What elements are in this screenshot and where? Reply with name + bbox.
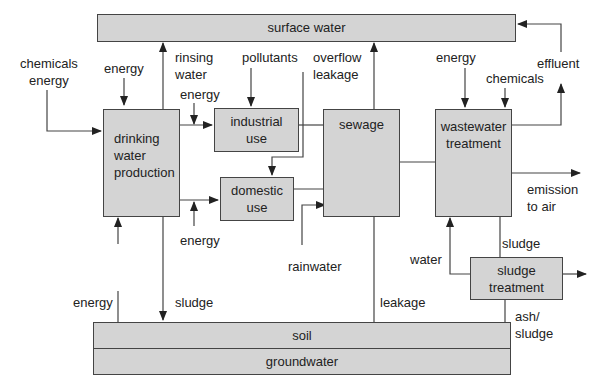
label-to-air: to air xyxy=(527,198,578,215)
dwp-line-1: drinking xyxy=(114,130,179,147)
label-sludge-dwp: sludge xyxy=(175,294,213,311)
dwp-line-2: water xyxy=(114,147,179,164)
label-chemicals: chemicals xyxy=(20,55,78,72)
label-ash: ash/ xyxy=(515,308,553,325)
label-energy-bottom: energy xyxy=(73,294,113,311)
wastewater-treatment-box: wastewater treatment xyxy=(435,109,512,217)
soil-label: soil xyxy=(292,328,312,343)
label-rinsing: rinsing xyxy=(175,49,213,66)
label-sludge-ash: sludge xyxy=(515,325,553,342)
dwp-line-3: production xyxy=(114,164,179,181)
domestic-line-2: use xyxy=(221,199,293,216)
label-energy-wwt: energy xyxy=(436,49,476,66)
label-rainwater: rainwater xyxy=(288,258,341,275)
wwt-line-2: treatment xyxy=(436,135,511,152)
label-energy-industrial: energy xyxy=(180,86,220,103)
label-water: water xyxy=(410,251,442,268)
groundwater-label: groundwater xyxy=(266,354,338,369)
label-overflow-leakage: overflow leakage xyxy=(313,49,361,83)
label-ash-sludge: ash/ sludge xyxy=(515,308,553,342)
label-effluent: effluent xyxy=(537,55,579,72)
industrial-use-box: industrial use xyxy=(214,108,299,152)
industrial-line-1: industrial xyxy=(215,113,298,130)
label-energy-domestic: energy xyxy=(180,232,220,249)
wwt-line-1: wastewater xyxy=(436,118,511,135)
label-leakage: leakage xyxy=(380,294,426,311)
groundwater-box: groundwater xyxy=(93,348,511,375)
sludge-treatment-box: sludge treatment xyxy=(470,257,563,300)
st-line-1: sludge xyxy=(471,262,562,279)
industrial-line-2: use xyxy=(215,130,298,147)
label-pollutants: pollutants xyxy=(242,49,298,66)
label-emission-to-air: emission to air xyxy=(527,181,578,215)
sewage-label: sewage xyxy=(324,116,399,133)
sewage-box: sewage xyxy=(323,109,400,217)
label-overflow: overflow xyxy=(313,49,361,66)
domestic-line-1: domestic xyxy=(221,182,293,199)
soil-box: soil xyxy=(93,322,511,349)
label-chemicals-energy: chemicals energy xyxy=(20,55,78,89)
drinking-water-production-box: drinking water production xyxy=(103,109,180,217)
label-sludge-wwt: sludge xyxy=(502,235,540,252)
label-emission: emission xyxy=(527,181,578,198)
label-energy-top-left: energy xyxy=(104,60,144,77)
label-rinsing-water: rinsing water xyxy=(175,49,213,83)
label-leakage-top: leakage xyxy=(313,66,361,83)
label-chemicals-wwt: chemicals xyxy=(486,70,544,87)
st-line-2: treatment xyxy=(471,279,562,296)
label-water: water xyxy=(175,66,213,83)
domestic-use-box: domestic use xyxy=(220,177,294,221)
surface-water-box: surface water xyxy=(97,14,516,42)
surface-water-label: surface water xyxy=(267,20,345,35)
label-energy: energy xyxy=(20,72,78,89)
